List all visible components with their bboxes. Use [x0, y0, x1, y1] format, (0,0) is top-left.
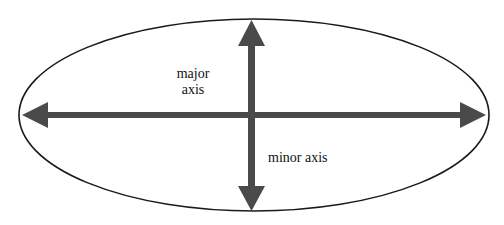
major-axis-label-line1: major — [160, 66, 226, 82]
minor-axis-label: minor axis — [268, 150, 328, 166]
major-axis-label-line2: axis — [160, 82, 226, 98]
arrowhead-right-icon — [460, 102, 486, 128]
major-axis-label: major axis — [160, 66, 226, 98]
arrowhead-top-icon — [238, 20, 265, 46]
ellipse-diagram — [0, 0, 504, 225]
arrowhead-bottom-icon — [238, 186, 265, 211]
arrowhead-left-icon — [22, 102, 48, 128]
